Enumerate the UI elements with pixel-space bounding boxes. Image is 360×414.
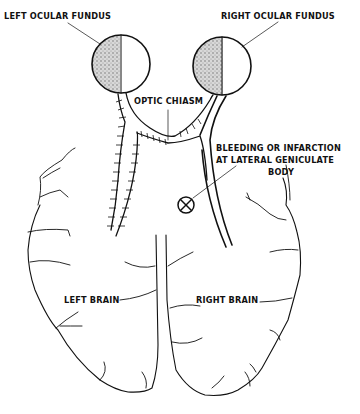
right-hemisphere bbox=[166, 165, 301, 395]
right-fundus-leader bbox=[242, 22, 278, 47]
left-hemisphere bbox=[28, 148, 158, 392]
left-fundus-label: LEFT OCULAR FUNDUS bbox=[4, 11, 111, 21]
lesion-label-line3: BODY bbox=[268, 167, 295, 177]
lesion-label-line2: AT LATERAL GENICULATE bbox=[216, 155, 334, 165]
optic-pathway bbox=[107, 93, 232, 247]
left-brain-label: LEFT BRAIN bbox=[64, 295, 120, 305]
right-brain-label: RIGHT BRAIN bbox=[196, 295, 258, 305]
lesion-marker-icon bbox=[178, 197, 194, 213]
visual-pathway-diagram: LEFT OCULAR FUNDUS RIGHT OCULAR FUNDUS O… bbox=[0, 0, 360, 414]
optic-chiasm-label: OPTIC CHIASM bbox=[134, 96, 203, 106]
lesion-leader bbox=[193, 166, 236, 198]
left-fundus-leader bbox=[68, 23, 100, 44]
lesion-label-line1: BLEEDING OR INFARCTION bbox=[216, 143, 341, 153]
right-ocular-fundus bbox=[193, 37, 251, 95]
right-fundus-label: RIGHT OCULAR FUNDUS bbox=[221, 11, 335, 21]
left-ocular-fundus bbox=[92, 35, 150, 93]
